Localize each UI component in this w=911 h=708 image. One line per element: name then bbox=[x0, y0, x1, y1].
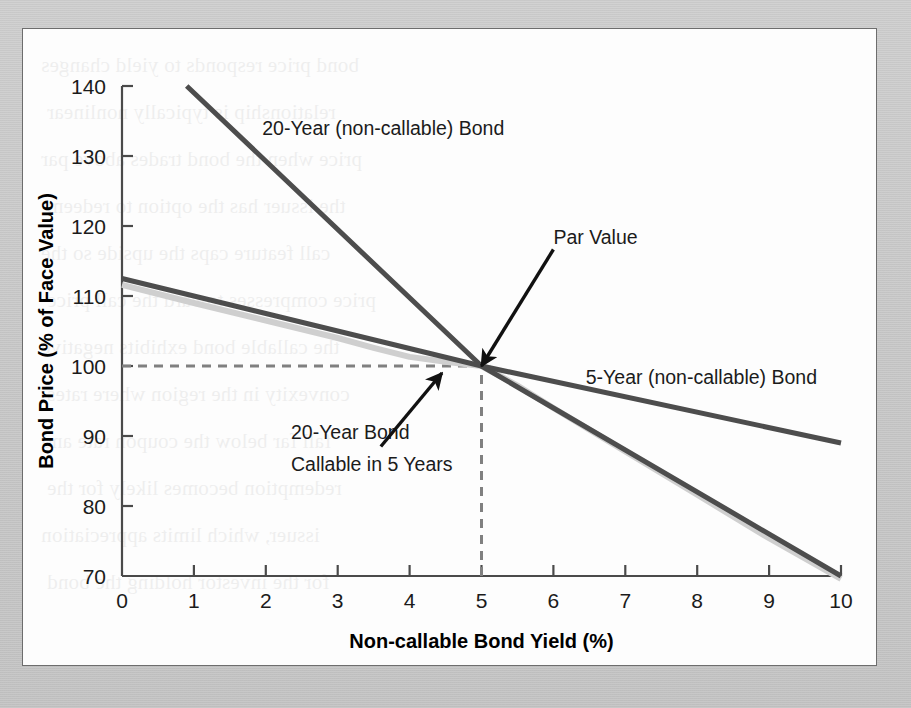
x-tick-label: 5 bbox=[476, 589, 488, 612]
series-line bbox=[187, 86, 841, 576]
y-axis-title: Bond Price (% of Face Value) bbox=[35, 193, 57, 469]
figure-panel: bond price responds to yield changesrela… bbox=[22, 28, 877, 666]
x-tick-label: 4 bbox=[404, 589, 416, 612]
x-tick-label: 1 bbox=[188, 589, 200, 612]
x-tick-label: 0 bbox=[116, 589, 128, 612]
series-line bbox=[122, 279, 841, 444]
y-tick-label: 130 bbox=[71, 145, 106, 168]
annotation-arrow-twenty-year-callable-arrow bbox=[381, 373, 442, 447]
y-tick-label: 100 bbox=[71, 355, 106, 378]
annotation-twenty-year-noncallable: 20-Year (non-callable) Bond bbox=[262, 117, 504, 139]
x-tick-label: 2 bbox=[260, 589, 272, 612]
y-tick-label: 80 bbox=[83, 495, 106, 518]
x-tick-label: 8 bbox=[691, 589, 703, 612]
annotation-arrow-par-value bbox=[482, 250, 554, 367]
y-tick-label: 90 bbox=[83, 425, 106, 448]
annotation-five-year-noncallable: 5-Year (non-callable) Bond bbox=[586, 366, 817, 388]
bond-price-yield-chart: 708090100110120130140012345678910Non-cal… bbox=[23, 29, 877, 666]
y-tick-label: 70 bbox=[83, 565, 106, 588]
annotation-par-value: Par Value bbox=[553, 226, 637, 248]
x-tick-label: 9 bbox=[763, 589, 775, 612]
x-axis-title: Non-callable Bond Yield (%) bbox=[349, 630, 613, 652]
annotation-twenty-year-callable-line2: Callable in 5 Years bbox=[291, 453, 453, 475]
x-tick-label: 7 bbox=[619, 589, 631, 612]
y-tick-label: 120 bbox=[71, 215, 106, 238]
x-tick-label: 6 bbox=[548, 589, 560, 612]
x-tick-label: 10 bbox=[829, 589, 852, 612]
y-tick-label: 140 bbox=[71, 75, 106, 98]
y-tick-label: 110 bbox=[73, 285, 106, 308]
x-tick-label: 3 bbox=[332, 589, 344, 612]
